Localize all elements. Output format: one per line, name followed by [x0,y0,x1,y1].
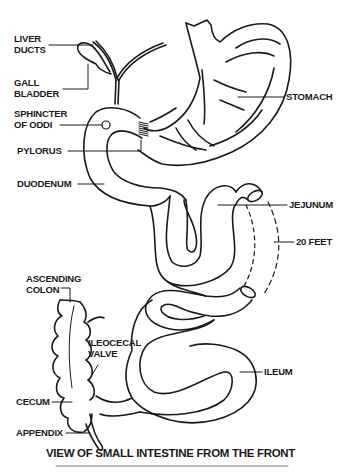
label-appendix: APPENDIX [16,427,63,438]
label-sphincter-of-oddi: SPHINCTER OF ODDI [14,108,67,130]
label-cecum: CECUM [16,396,50,407]
label-line: SPHINCTER [14,108,67,119]
intestine-drawing [84,108,264,423]
label-jejunum: JEJUNUM [289,199,333,210]
liver-ducts-drawing [93,41,166,104]
sphincter-of-oddi-marker [102,121,110,129]
label-ileocecal-valve: ILEOCECAL VALVE [88,337,141,359]
label-ascending-colon: ASCENDING COLON [26,273,81,295]
label-stomach: STOMACH [286,91,332,102]
label-line: ASCENDING [26,273,81,284]
label-line: VALVE [88,348,141,359]
diagram-caption: VIEW OF SMALL INTESTINE FROM THE FRONT [46,447,295,459]
label-line: GALL [14,77,59,88]
label-gall-bladder: GALL BLADDER [14,77,59,99]
leader-lines [49,45,294,433]
label-duodenum: DUODENUM [17,178,71,189]
intestine-diagram: LIVER DUCTS GALL BLADDER SPHINCTER OF OD… [0,0,354,474]
label-line: DUCTS [14,44,46,55]
stomach-drawing [138,20,291,166]
label-ileum: ILEUM [264,366,293,377]
label-line: ILEOCECAL [88,337,141,348]
label-line: LIVER [14,33,46,44]
label-liver-ducts: LIVER DUCTS [14,33,46,55]
gall-bladder-drawing [78,43,111,74]
label-pylorus: PYLORUS [17,145,62,156]
length-arc [264,202,279,294]
label-line: COLON [26,284,81,295]
label-line: BLADDER [14,88,59,99]
label-line: OF ODDI [14,119,67,130]
label-20-feet: 20 FEET [296,236,332,247]
